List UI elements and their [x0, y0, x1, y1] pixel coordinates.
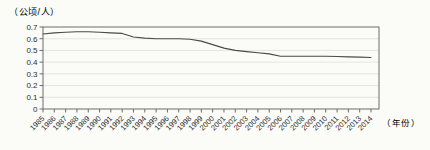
line-chart-figure: 0.70.60.50.40.30.20.10198519861987198819… [0, 0, 430, 150]
y-tick-label: 0.6 [26, 35, 38, 44]
x-axis-unit-label: （年份） [382, 116, 420, 128]
y-tick-label: 0.2 [26, 81, 38, 90]
y-tick-label: 0.3 [26, 70, 38, 79]
chart-canvas: 0.70.60.50.40.30.20.10198519861987198819… [0, 0, 430, 150]
y-tick-label: 0.5 [26, 46, 38, 55]
y-tick-label: 0 [33, 105, 38, 114]
y-axis-unit-label: （公顷/人） [9, 5, 60, 18]
y-tick-label: 0.7 [26, 23, 38, 32]
y-tick-label: 0.1 [26, 93, 38, 102]
y-tick-label: 0.4 [26, 58, 38, 67]
